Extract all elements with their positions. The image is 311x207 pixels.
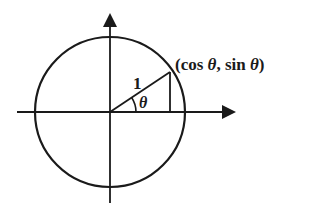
point-label: (cos θ, sin θ) — [175, 55, 264, 74]
angle-label: θ — [139, 94, 148, 111]
point-label-theta-2: θ — [250, 55, 259, 74]
unit-circle-diagram: 1 θ (cos θ, sin θ) — [0, 0, 311, 207]
point-label-open: (cos — [175, 55, 208, 74]
x-axis-arrow-icon — [222, 105, 236, 119]
radius-label: 1 — [133, 74, 142, 93]
point-label-close: ) — [259, 55, 265, 74]
angle-arc — [132, 98, 136, 113]
point-label-theta-1: θ — [208, 55, 217, 74]
y-axis-arrow-icon — [103, 13, 117, 27]
point-label-mid: , sin — [216, 55, 250, 74]
